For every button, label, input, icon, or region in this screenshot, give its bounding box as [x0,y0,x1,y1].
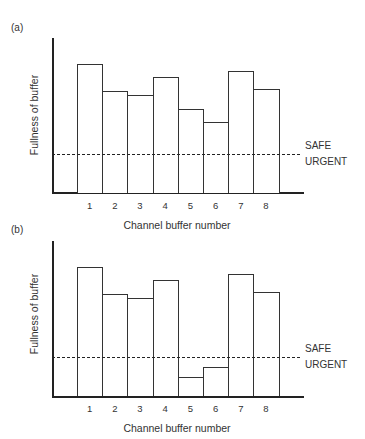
x-tick-4: 4 [163,403,168,414]
x-tick-7: 7 [238,403,243,414]
x-tick-3: 3 [137,403,142,414]
safe-urgent-threshold-line [52,357,300,358]
bar-channel-1 [77,267,103,396]
bar-channel-8 [253,292,279,396]
bar-channel-7 [228,274,254,396]
chart-panel-b: (b) Fullness of buffer SAFE URGENT 12345… [0,0,365,439]
x-tick-5: 5 [188,403,193,414]
bar-channel-4 [153,280,179,396]
bar-channel-6 [203,367,229,396]
x-tick-6: 6 [213,403,218,414]
safe-label: SAFE [305,343,331,354]
x-tick-8: 8 [263,403,268,414]
bar-channel-2 [102,294,128,396]
panel-label: (b) [11,224,23,235]
urgent-label: URGENT [305,359,347,370]
x-axis [52,396,304,398]
bar-channel-5 [178,377,204,396]
y-axis [52,241,54,398]
y-axis-label: Fullness of buffer [28,274,40,354]
bar-channel-3 [127,298,153,396]
x-tick-1: 1 [87,403,92,414]
x-axis-label: Channel buffer number [123,422,230,434]
x-tick-2: 2 [112,403,117,414]
